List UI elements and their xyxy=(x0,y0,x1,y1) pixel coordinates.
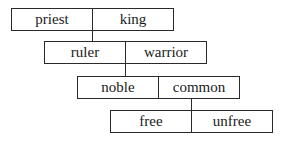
cell-priest: priest xyxy=(12,9,92,30)
cell-king: king xyxy=(92,9,173,30)
cell-noble: noble xyxy=(78,77,158,98)
cell-common: common xyxy=(158,77,239,98)
connector-1-2 xyxy=(92,31,93,41)
level-2-box: ruler warrior xyxy=(44,41,207,64)
connector-2-3 xyxy=(125,64,126,76)
level-1-box: priest king xyxy=(11,8,174,31)
cell-unfree: unfree xyxy=(191,111,272,132)
cell-warrior: warrior xyxy=(125,42,206,63)
cell-free: free xyxy=(111,111,191,132)
connector-3-4 xyxy=(191,99,192,110)
cell-ruler: ruler xyxy=(45,42,125,63)
level-4-box: free unfree xyxy=(110,110,273,133)
level-3-box: noble common xyxy=(77,76,240,99)
